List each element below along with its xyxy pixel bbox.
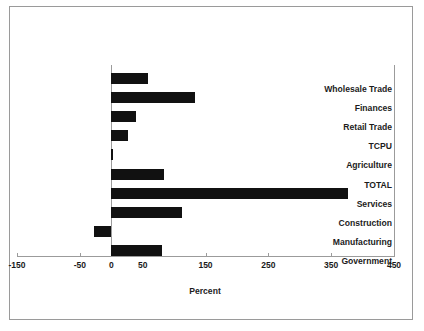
bar	[111, 169, 164, 180]
category-label: TOTAL	[232, 180, 392, 191]
right-axis-line	[394, 65, 395, 257]
x-tick-mark	[17, 253, 18, 257]
plot-area: -150-50050150250350450 Wholesale TradeFi…	[0, 0, 424, 331]
category-label: Retail Trade	[232, 122, 392, 133]
x-axis-title: Percent	[0, 286, 410, 296]
bar	[111, 92, 195, 103]
bar	[111, 207, 182, 218]
x-tick-mark	[394, 253, 395, 257]
bar	[111, 73, 147, 84]
category-label: Government	[232, 256, 392, 267]
x-tick-mark	[206, 253, 207, 257]
chart-screenshot: -150-50050150250350450 Wholesale TradeFi…	[0, 0, 424, 331]
category-label: Finances	[232, 103, 392, 114]
bar	[111, 111, 136, 122]
category-label: Manufacturing	[232, 237, 392, 248]
category-label: Agriculture	[232, 160, 392, 171]
bar	[111, 245, 161, 256]
x-tick-label: -150	[0, 260, 37, 270]
bar	[111, 130, 128, 141]
category-label: Services	[232, 199, 392, 210]
bar	[111, 149, 113, 160]
category-label: Wholesale Trade	[232, 84, 392, 95]
x-tick-mark	[80, 253, 81, 257]
x-tick-label: 150	[186, 260, 226, 270]
category-label: TCPU	[232, 141, 392, 152]
category-label: Construction	[232, 218, 392, 229]
x-tick-label: 50	[123, 260, 163, 270]
bar	[94, 226, 112, 237]
